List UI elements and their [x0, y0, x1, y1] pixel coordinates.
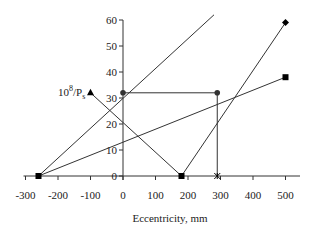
triangle-marker [87, 89, 94, 96]
y-tick-label: 30 [106, 92, 118, 104]
circle-marker [214, 90, 220, 96]
square-marker [283, 74, 289, 80]
y-tick-label: 10 [106, 144, 118, 156]
x-tick-label: -100 [80, 189, 101, 201]
x-tick-label: -300 [15, 189, 36, 201]
series-label: 108/Ps [58, 84, 85, 101]
x-tick-label: 300 [212, 189, 229, 201]
x-tick-label: 200 [180, 189, 197, 201]
square-marker [179, 173, 185, 179]
x-tick-label: 400 [245, 189, 262, 201]
x-tick-label: -200 [48, 189, 69, 201]
y-tick-label: 50 [106, 40, 118, 52]
y-tick-label: 40 [106, 66, 118, 78]
markers-group [36, 19, 290, 179]
square-marker [36, 173, 42, 179]
x-axis-title: Eccentricity, mm [132, 212, 207, 224]
diamond-marker [282, 19, 289, 26]
y-tick-label: 60 [106, 14, 118, 26]
x-tick-label: 100 [147, 189, 164, 201]
x-tick-label: 500 [277, 189, 294, 201]
axes: -300-200-1000100200300400500010203040506… [15, 14, 300, 201]
y-tick-label: 20 [106, 118, 118, 130]
series-line-line-d [123, 93, 217, 176]
y-tick-label: 0 [112, 170, 118, 182]
circle-marker [120, 90, 126, 96]
x-tick-label: 0 [120, 189, 126, 201]
chart: -300-200-1000100200300400500010203040506… [0, 0, 313, 235]
